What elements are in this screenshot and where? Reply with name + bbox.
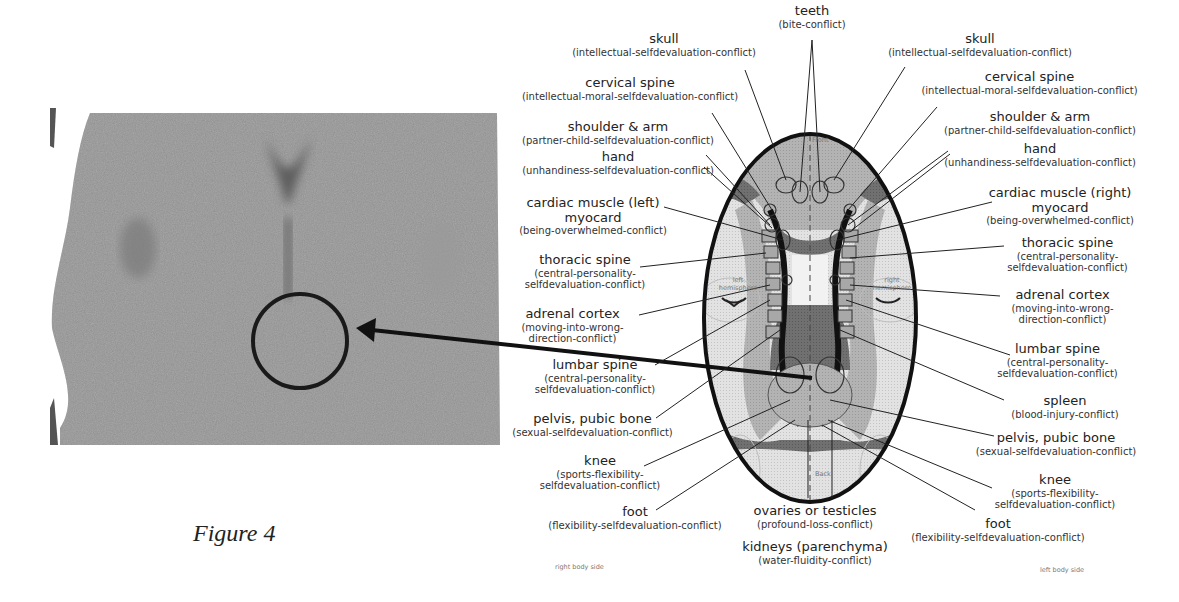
front-label: Front (812, 136, 828, 144)
label-teeth: teeth (bite-conflict) (762, 4, 862, 30)
right-label-cardiac-muscle: cardiac muscle (right) myocard (being-ov… (975, 186, 1145, 226)
right-label-thoracic-spine: thoracic spine (central-personality- sel… (1000, 236, 1135, 273)
left-label-cardiac-muscle: cardiac muscle (left) myocard (being-ove… (508, 196, 678, 236)
left-label-skull: skull (intellectual-selfdevaluation-conf… (564, 32, 764, 58)
right-label-spleen: spleen (blood-injury-conflict) (1010, 394, 1120, 420)
left-label-knee: knee (sports-flexibility- selfdevaluatio… (535, 454, 665, 491)
right-label-cervical-spine: cervical spine (intellectual-moral-selfd… (912, 70, 1147, 96)
figure-caption: Figure 4 (193, 520, 275, 547)
right-label-foot: foot (flexibility-selfdevaluation-confli… (908, 517, 1088, 543)
right-label-skull: skull (intellectual-selfdevaluation-conf… (880, 32, 1080, 58)
label-ovaries-testicles: ovaries or testicles (profound-loss-conf… (740, 504, 890, 530)
right-label-adrenal-cortex: adrenal cortex (moving-into-wrong- direc… (1000, 288, 1125, 325)
left-hemisphere-label: left hemisphere (718, 276, 758, 292)
left-label-shoulder-arm: shoulder & arm (partner-child-selfdevalu… (508, 120, 728, 146)
right-label-pelvis: pelvis, pubic bone (sexual-selfdevaluati… (966, 431, 1146, 457)
brain-oval (690, 120, 930, 520)
label-kidneys: kidneys (parenchyma) (water-fluidity-con… (740, 540, 890, 566)
back-label: Back (815, 470, 831, 478)
left-label-adrenal-cortex: adrenal cortex (moving-into-wrong- direc… (510, 307, 635, 344)
right-hemisphere-label: right hemisphere (872, 276, 912, 292)
left-body-side-label: left body side (1040, 566, 1084, 574)
right-body-side-label: right body side (555, 563, 604, 571)
left-label-foot: foot (flexibility-selfdevaluation-confli… (545, 505, 725, 531)
left-label-hand: hand (unhandiness-selfdevaluation-confli… (508, 150, 728, 176)
right-label-knee: knee (sports-flexibility- selfdevaluatio… (990, 473, 1120, 510)
right-label-lumbar-spine: lumbar spine (central-personality- selfd… (990, 342, 1125, 379)
left-label-cervical-spine: cervical spine (intellectual-moral-selfd… (510, 76, 750, 102)
left-label-lumbar-spine: lumbar spine (central-personality- selfd… (530, 358, 660, 395)
right-label-shoulder-arm: shoulder & arm (partner-child-selfdevalu… (935, 110, 1145, 136)
left-label-thoracic-spine: thoracic spine (central-personality- sel… (520, 253, 650, 290)
left-label-pelvis: pelvis, pubic bone (sexual-selfdevaluati… (505, 412, 680, 438)
right-label-hand: hand (unhandiness-selfdevaluation-confli… (935, 142, 1145, 168)
